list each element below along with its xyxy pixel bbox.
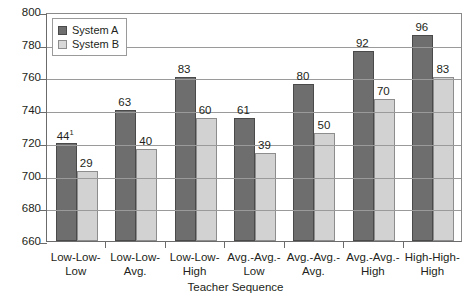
bar-value-label: 83 — [165, 63, 204, 75]
legend-label-system-b: System B — [72, 38, 119, 50]
x-axis-tick — [403, 242, 404, 248]
x-axis-category-label: Low-Low-Low — [43, 250, 108, 278]
x-category-line: High — [420, 265, 444, 277]
x-category-line: Low — [65, 265, 86, 277]
x-axis-tick — [165, 242, 166, 248]
legend-item-system-b: System B — [58, 37, 119, 51]
gridline — [47, 210, 461, 211]
bar-value-label: 61 — [224, 104, 263, 116]
bar-system-a — [115, 110, 136, 241]
gridline — [47, 79, 461, 80]
y-axis-tick — [40, 79, 47, 80]
bar-value-label: 63 — [105, 96, 144, 108]
x-axis-category-label: Avg.-Avg.-Avg. — [281, 250, 346, 278]
bar-system-b — [433, 77, 454, 241]
y-axis-tick-label: 740 — [7, 105, 41, 117]
x-axis-tick — [343, 242, 344, 248]
bar-value-label: 70 — [364, 85, 403, 97]
x-axis-category-label: High-High-High — [400, 250, 465, 278]
bar-system-a — [293, 84, 314, 241]
x-category-line: High — [183, 265, 207, 277]
light-gray-swatch-icon — [58, 40, 67, 49]
y-axis-labels: 660680700720740760780800 — [0, 0, 41, 300]
y-axis-tick-label: 680 — [7, 203, 41, 215]
x-category-line: Low — [243, 265, 264, 277]
y-axis-tick — [40, 145, 47, 146]
x-category-line: Avg.-Avg.- — [346, 251, 399, 263]
bar-value-label: 40 — [126, 135, 165, 147]
x-category-line: Avg. — [124, 265, 147, 277]
bar-system-b — [314, 133, 335, 241]
x-axis-tick — [224, 242, 225, 248]
bar-system-a — [234, 118, 255, 241]
x-category-line: Low-Low- — [170, 251, 220, 263]
bar-system-b — [255, 153, 276, 241]
bar-system-b — [374, 99, 395, 241]
bar-system-b — [77, 171, 98, 241]
bar-value-label: 92 — [343, 37, 382, 49]
x-axis-category-label: Avg.-Avg.-High — [340, 250, 405, 278]
legend-item-system-a: System A — [58, 23, 119, 37]
y-axis-tick — [40, 178, 47, 179]
chart-legend: System A System B — [52, 18, 127, 56]
y-axis-tick — [40, 210, 47, 211]
x-category-line: High — [361, 265, 385, 277]
y-axis-tick-label: 660 — [7, 236, 41, 248]
bar-chart: 660680700720740760780800 44129Low-Low-Lo… — [0, 0, 471, 300]
y-axis-tick — [40, 112, 47, 113]
x-category-line: Low-Low- — [110, 251, 160, 263]
bar-value-label: 96 — [402, 21, 441, 33]
bar-value-label: 39 — [245, 139, 284, 151]
y-axis-tick-label: 780 — [7, 40, 41, 52]
bar-value-label: 60 — [186, 104, 225, 116]
x-axis-tick — [105, 242, 106, 248]
x-category-line: Avg. — [302, 265, 325, 277]
bar-value-label: 441 — [46, 129, 85, 142]
x-axis-category-label: Low-Low-Avg. — [102, 250, 167, 278]
y-axis-tick-label: 800 — [7, 7, 41, 19]
bar-value-label: 50 — [304, 119, 343, 131]
x-category-line: High-High- — [405, 251, 460, 263]
y-axis-tick — [40, 14, 47, 15]
x-category-line: Avg.-Avg.- — [227, 251, 280, 263]
bar-value-label: 80 — [283, 70, 322, 82]
bar-system-b — [196, 118, 217, 241]
bar-system-b — [136, 149, 157, 241]
x-category-line: Low-Low- — [51, 251, 101, 263]
x-axis-title: Teacher Sequence — [0, 281, 471, 294]
legend-label-system-a: System A — [72, 24, 118, 36]
x-axis-category-label: Low-Low-High — [162, 250, 227, 278]
y-axis-tick — [40, 243, 47, 244]
x-axis-tick — [284, 242, 285, 248]
bar-system-a — [175, 77, 196, 241]
x-axis-category-label: Avg.-Avg.-Low — [221, 250, 286, 278]
y-axis-tick — [40, 47, 47, 48]
bar-value-label: 83 — [423, 63, 462, 75]
y-axis-tick-label: 760 — [7, 72, 41, 84]
y-axis-tick-label: 720 — [7, 138, 41, 150]
dark-gray-swatch-icon — [58, 26, 67, 35]
y-axis-tick-label: 700 — [7, 171, 41, 183]
x-category-line: Avg.-Avg.- — [287, 251, 340, 263]
bar-value-label: 29 — [67, 157, 106, 169]
gridline — [47, 178, 461, 179]
